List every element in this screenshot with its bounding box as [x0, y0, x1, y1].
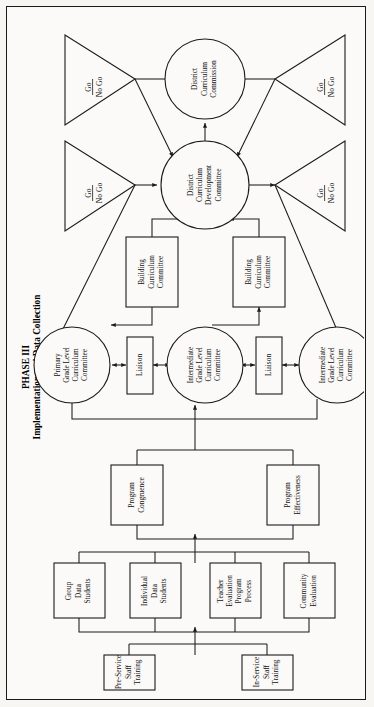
link-intermediate1-to-buildingcc-right [212, 307, 259, 325]
gonogo-4-nogo: No Go [327, 183, 336, 204]
buildingcc-right-line-2: Curriculum [254, 255, 263, 289]
intermediate1-line-1: Intermediate [187, 347, 195, 383]
group-line-3: Students [83, 578, 92, 603]
gonogo-1[interactable]: Go No Go [65, 35, 135, 125]
buildingcc-left-line-1: Building [137, 259, 146, 285]
intermediate1-line-4: Committee [214, 349, 222, 381]
node-building-curriculum-committee-left[interactable]: Building Curriculum Committee [126, 237, 178, 307]
inservice-line-2: Staff [262, 664, 271, 679]
dev-line-3: Development [204, 164, 213, 205]
individual-line-3: Students [159, 578, 168, 603]
liaison-1-label: Liaison [135, 354, 144, 376]
gonogo-2-go: Go [84, 188, 93, 197]
primary-line-3: Curriculum [72, 348, 80, 382]
gonogo-3-nogo: No Go [327, 77, 336, 98]
link-buildingcc-left-to-primary [111, 307, 152, 325]
diagram-frame: PHASE III Implementation and Data Collec… [6, 6, 366, 700]
link-gonogo2-to-primary [59, 185, 135, 337]
dev-line-1: District [186, 173, 195, 196]
effectiveness-line-1: Program [283, 482, 292, 508]
gonogo-1-nogo: No Go [95, 77, 104, 98]
buildingcc-right-line-3: Committee [263, 256, 272, 288]
node-program-congruence[interactable]: Program Congruence [111, 465, 163, 525]
teacher-line-2: Evaluation [225, 575, 234, 607]
gonogo-4-go: Go [316, 188, 325, 197]
preservice-line-1: Pre-Service [114, 655, 123, 689]
effectiveness-line-2: Effectiveness [293, 475, 302, 515]
intermediate2-line-3: Curriculum [337, 348, 345, 382]
gonogo-1-go: Go [84, 82, 93, 91]
individual-line-1: Individual [140, 576, 149, 606]
node-district-curriculum-commission[interactable]: District Curriculum Commission [165, 39, 245, 119]
flowchart-svg: PHASE III Implementation and Data Collec… [7, 7, 364, 698]
primary-line-2: Grade Level [63, 347, 71, 383]
node-in-service-staff-training[interactable]: In-Service Staff Training [242, 655, 293, 690]
individual-line-2: Data [150, 583, 159, 598]
teacher-line-1: Teacher [216, 579, 225, 603]
preservice-line-2: Staff [124, 664, 133, 679]
gonogo-4[interactable]: Go No Go [275, 141, 345, 231]
intermediate2-line-2: Grade Level [328, 347, 336, 383]
node-community-evaluation[interactable]: Community Evaluation [284, 563, 335, 618]
congruence-line-2: Congruence [137, 476, 146, 512]
commission-line-2: Curriculum [200, 62, 209, 96]
node-liaison-2[interactable]: Liaison [256, 337, 282, 394]
commission-line-3: Commission [209, 60, 218, 98]
gonogo-3-go: Go [316, 82, 325, 91]
inservice-line-3: Training [271, 659, 280, 684]
node-program-effectiveness[interactable]: Program Effectiveness [267, 465, 319, 525]
intermediate1-line-2: Grade Level [196, 347, 204, 383]
node-primary-grade-level-curriculum-committee[interactable]: Primary Grade Level Curriculum Committee [34, 327, 110, 403]
gonogo-3[interactable]: Go No Go [275, 35, 345, 125]
primary-line-1: Primary [54, 353, 62, 377]
congruence-line-1: Program [127, 482, 136, 508]
community-line-1: Community [299, 573, 308, 608]
diagram-page: PHASE III Implementation and Data Collec… [0, 0, 374, 707]
group-line-1: Group [64, 581, 73, 600]
commission-line-1: District [190, 67, 199, 90]
node-group-data-students[interactable]: Group Data Students [54, 563, 105, 618]
bracket-data-bottom [79, 618, 309, 632]
group-line-2: Data [74, 583, 83, 598]
title-line-1: PHASE III [21, 345, 31, 390]
buildingcc-left-line-3: Committee [156, 256, 165, 288]
inservice-line-1: In-Service [252, 657, 261, 687]
dev-line-4: Committee [214, 168, 223, 202]
intermediate2-line-1: Intermediate [319, 347, 327, 383]
link-buildingcc-left-to-dev [152, 219, 183, 237]
buildingcc-right-line-1: Building [244, 259, 253, 285]
liaison-2-label: Liaison [264, 354, 273, 376]
primary-line-4: Committee [81, 349, 89, 381]
gonogo-2-nogo: No Go [95, 183, 104, 204]
dev-line-2: Curriculum [195, 168, 204, 202]
bracket-programs-bottom [137, 525, 293, 539]
preservice-line-3: Training [133, 659, 142, 684]
teacher-line-3: Program [234, 578, 243, 603]
node-intermediate-grade-level-curriculum-committee-2[interactable]: Intermediate Grade Level Curriculum Comm… [299, 327, 364, 403]
buildingcc-left-line-2: Curriculum [147, 255, 156, 289]
node-liaison-1[interactable]: Liaison [127, 337, 153, 394]
node-pre-service-staff-training[interactable]: Pre-Service Staff Training [104, 655, 155, 690]
node-individual-data-students[interactable]: Individual Data Students [130, 563, 181, 618]
intermediate1-line-3: Curriculum [205, 348, 213, 382]
gonogo-2[interactable]: Go No Go [65, 141, 135, 231]
community-line-2: Evaluation [309, 575, 318, 607]
node-intermediate-grade-level-curriculum-committee-1[interactable]: Intermediate Grade Level Curriculum Comm… [167, 327, 243, 403]
node-building-curriculum-committee-right[interactable]: Building Curriculum Committee [233, 237, 285, 307]
teacher-line-4: Process [244, 580, 253, 602]
node-teacher-evaluation-program-process[interactable]: Teacher Evaluation Program Process [210, 563, 261, 618]
link-buildingcc-right-to-dev [229, 219, 259, 237]
node-district-curriculum-development-committee[interactable]: District Curriculum Development Committe… [161, 141, 249, 229]
intermediate2-line-4: Committee [346, 349, 354, 381]
